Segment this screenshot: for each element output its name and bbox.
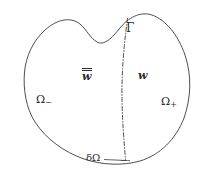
field-left-label-text: w: [82, 68, 91, 82]
domain-outer-boundary: [24, 14, 190, 164]
math-figure: Γ w w Ω− Ω+ δΩ: [0, 0, 205, 174]
interface-label: Γ: [126, 22, 134, 34]
field-left-label: w: [82, 68, 91, 82]
field-right-label: w: [138, 70, 147, 81]
subdomain-right-base: Ω: [161, 95, 170, 108]
subdomain-left-base: Ω: [36, 93, 45, 106]
interface-curve: [122, 19, 128, 161]
boundary-label: δΩ: [86, 153, 100, 163]
subdomain-right-label: Ω+: [161, 96, 177, 109]
subdomain-left-subscript: −: [45, 98, 52, 107]
boundary-leader-line: [104, 160, 126, 161]
subdomain-right-subscript: +: [170, 100, 177, 109]
subdomain-left-label: Ω−: [36, 94, 52, 107]
figure-canvas: [0, 0, 205, 174]
